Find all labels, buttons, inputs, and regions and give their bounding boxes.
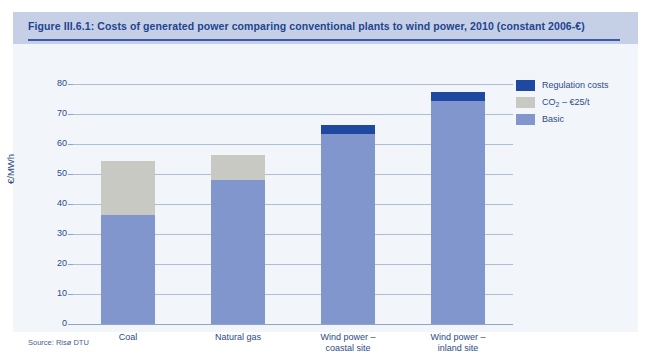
x-axis-baseline (73, 324, 513, 325)
legend-label-co2-subscript: 2 (556, 101, 560, 108)
legend: Regulation costs CO2 – €25/t Basic (516, 78, 636, 129)
y-tick-label: 10 (43, 289, 67, 298)
bar-group[interactable] (431, 92, 485, 325)
legend-swatch-regulation-costs (516, 80, 535, 91)
bar-segment[interactable] (101, 215, 155, 325)
figure-header-band: Figure III.6.1: Costs of generated power… (13, 12, 638, 44)
bar-segment[interactable] (211, 180, 265, 324)
y-axis-label: €/MWh (5, 154, 16, 184)
category-label: Wind power – inland site (408, 332, 508, 354)
bar-segment[interactable] (431, 101, 485, 325)
figure-container: Figure III.6.1: Costs of generated power… (13, 12, 638, 332)
y-tick-label: 70 (43, 109, 67, 118)
y-tick-label: 20 (43, 259, 67, 268)
y-tick-label: 80 (43, 79, 67, 88)
legend-swatch-co2 (516, 97, 535, 108)
bar-segment[interactable] (321, 125, 375, 134)
legend-label-co2: CO2 – €25/t (542, 97, 589, 108)
bar-segment[interactable] (321, 134, 375, 325)
legend-label-regulation-costs: Regulation costs (542, 80, 609, 91)
legend-item-co2[interactable]: CO2 – €25/t (516, 95, 636, 111)
y-tick-label: 30 (43, 229, 67, 238)
figure-title: Figure III.6.1: Costs of generated power… (28, 20, 585, 32)
y-tick-label: 60 (43, 139, 67, 148)
legend-label-basic: Basic (542, 114, 564, 125)
bar-group[interactable] (101, 161, 155, 325)
bar-segment[interactable] (211, 155, 265, 181)
bar-segment[interactable] (431, 92, 485, 101)
bar-segment[interactable] (101, 161, 155, 215)
bar-group[interactable] (321, 125, 375, 325)
legend-swatch-basic (516, 114, 535, 125)
y-tick-label: 40 (43, 199, 67, 208)
chart-body: €/MWh 01020304050607080 CoalNatural gasW… (13, 44, 638, 332)
legend-label-co2-main: CO (542, 97, 556, 107)
category-label: Coal (78, 332, 178, 343)
legend-item-regulation-costs[interactable]: Regulation costs (516, 78, 636, 94)
category-label: Natural gas (188, 332, 288, 343)
title-divider (28, 39, 620, 41)
category-label: Wind power – coastal site (298, 332, 398, 354)
legend-label-co2-tail: – €25/t (559, 97, 589, 107)
y-axis-tick-labels: 01020304050607080 (39, 84, 67, 324)
bar-group[interactable] (211, 155, 265, 325)
gridline (73, 84, 513, 85)
y-tick-label: 0 (43, 319, 67, 328)
source-note: Source: Risø DTU (28, 338, 89, 347)
plot-area: CoalNatural gasWind power – coastal site… (73, 84, 513, 324)
legend-item-basic[interactable]: Basic (516, 112, 636, 128)
y-tick-label: 50 (43, 169, 67, 178)
